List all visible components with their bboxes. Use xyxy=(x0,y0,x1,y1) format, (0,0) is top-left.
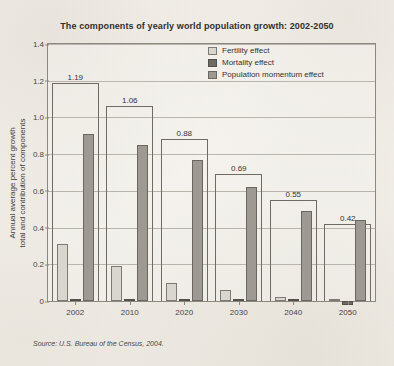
chart-legend: Fertility effect Mortality effect Popula… xyxy=(208,45,324,81)
bar-fertility xyxy=(275,297,286,301)
legend-swatch-momentum-icon xyxy=(208,71,217,79)
x-axis-tick-mark xyxy=(293,301,294,305)
y-axis-label-line-2: total and contribution of components xyxy=(18,68,28,298)
total-value-label: 0.88 xyxy=(176,129,192,138)
bar-group: 0.692030 xyxy=(212,44,267,301)
y-axis-tick-mark xyxy=(45,301,49,302)
legend-label-mortality: Mortality effect xyxy=(222,58,274,67)
y-axis-tick-label: 0 xyxy=(40,297,44,306)
legend-item-mortality: Mortality effect xyxy=(208,57,324,68)
bar-momentum xyxy=(83,134,94,301)
x-axis-tick-mark xyxy=(130,301,131,305)
x-axis-tick-mark xyxy=(239,301,240,305)
x-axis-tick-label: 2002 xyxy=(66,308,84,317)
total-value-label: 0.55 xyxy=(285,190,301,199)
legend-label-momentum: Population momentum effect xyxy=(222,70,324,79)
bar-fertility xyxy=(57,244,68,301)
y-axis-label-line-1: Annual average percent growth xyxy=(8,68,18,298)
y-axis-tick-label: 1.4 xyxy=(33,40,44,49)
bar-group: 0.882020 xyxy=(157,44,212,301)
bar-momentum xyxy=(246,187,257,301)
legend-swatch-fertility-icon xyxy=(208,47,217,55)
bar-fertility xyxy=(166,283,177,301)
y-axis-tick-label: 0.6 xyxy=(33,186,44,195)
y-axis-tick-label: 0.8 xyxy=(33,150,44,159)
bar-momentum xyxy=(301,211,312,301)
x-axis-tick-label: 2020 xyxy=(175,308,193,317)
x-axis-tick-label: 2010 xyxy=(121,308,139,317)
y-axis-tick-label: 1.0 xyxy=(33,113,44,122)
total-value-label: 1.06 xyxy=(122,96,138,105)
x-axis-tick-label: 2050 xyxy=(339,308,357,317)
legend-item-fertility: Fertility effect xyxy=(208,45,324,56)
total-value-label: 1.19 xyxy=(67,73,83,82)
bar-momentum xyxy=(192,160,203,301)
bar-group: 1.192002 xyxy=(48,44,103,301)
bar-momentum xyxy=(355,220,366,301)
bar-momentum xyxy=(137,145,148,301)
x-axis-tick-mark xyxy=(348,301,349,305)
y-axis-label: Annual average percent growth total and … xyxy=(8,68,28,298)
x-axis-tick-mark xyxy=(75,301,76,305)
total-value-label: 0.42 xyxy=(340,214,356,223)
source-note: Source: U.S. Bureau of the Census, 2004. xyxy=(33,340,164,347)
legend-item-momentum: Population momentum effect xyxy=(208,69,324,80)
bar-group: 0.552040 xyxy=(266,44,321,301)
total-value-label: 0.69 xyxy=(231,164,247,173)
legend-label-fertility: Fertility effect xyxy=(222,46,269,55)
y-axis-tick-label: 0.2 xyxy=(33,260,44,269)
y-axis-tick-label: 1.2 xyxy=(33,76,44,85)
x-axis-tick-label: 2040 xyxy=(284,308,302,317)
bar-group: 1.062010 xyxy=(103,44,158,301)
chart-title: The components of yearly world populatio… xyxy=(0,21,394,31)
bar-group: 0.422050 xyxy=(321,44,376,301)
bar-fertility xyxy=(111,266,122,301)
x-axis-tick-label: 2030 xyxy=(230,308,248,317)
bar-fertility xyxy=(329,299,340,301)
x-axis-tick-mark xyxy=(184,301,185,305)
plot-area: 00.20.40.60.81.01.21.41.1920021.0620100.… xyxy=(47,43,376,302)
bar-fertility xyxy=(220,290,231,301)
y-axis-tick-label: 0.4 xyxy=(33,223,44,232)
legend-swatch-mortality-icon xyxy=(208,59,217,67)
